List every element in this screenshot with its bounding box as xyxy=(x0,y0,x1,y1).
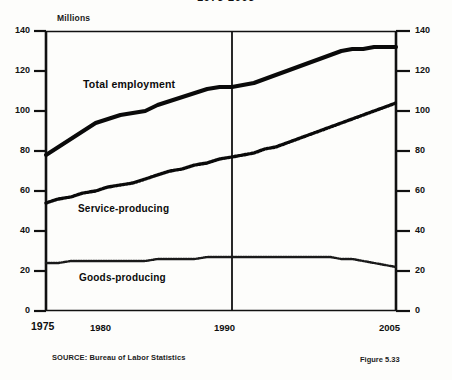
y-tick-left-20: 20 xyxy=(4,265,30,275)
axis-frame xyxy=(46,31,396,311)
series-label-goods-producing: Goods-producing xyxy=(79,272,166,283)
y-tick-right-0: 0 xyxy=(415,305,441,315)
y-tick-right-140: 140 xyxy=(415,25,441,35)
y-tick-left-0: 0 xyxy=(4,305,30,315)
figure-number: Figure 5.33 xyxy=(360,355,400,364)
series-label-total-employment: Total employment xyxy=(83,78,175,90)
x-tick-1990: 1990 xyxy=(214,322,235,333)
y-tick-left-120: 120 xyxy=(4,65,30,75)
y-axis-ticks-left xyxy=(34,31,46,311)
source-note: SOURCE: Bureau of Labor Statistics xyxy=(52,353,185,362)
series-label-service-producing: Service-producing xyxy=(78,203,169,214)
y-tick-left-80: 80 xyxy=(4,145,30,155)
y-tick-right-80: 80 xyxy=(415,145,441,155)
y-tick-left-140: 140 xyxy=(4,25,30,35)
source-prefix: SOURCE: xyxy=(52,353,87,362)
series-service-producing xyxy=(46,103,396,203)
y-tick-right-40: 40 xyxy=(415,225,441,235)
x-tick-2005: 2005 xyxy=(379,322,400,333)
y-tick-right-60: 60 xyxy=(415,185,441,195)
source-organization: Bureau of Labor Statistics xyxy=(89,353,185,362)
y-tick-right-100: 100 xyxy=(415,105,441,115)
y-tick-left-40: 40 xyxy=(4,225,30,235)
y-tick-left-100: 100 xyxy=(4,105,30,115)
y-tick-right-20: 20 xyxy=(415,265,441,275)
y-tick-left-60: 60 xyxy=(4,185,30,195)
y-tick-right-120: 120 xyxy=(415,65,441,75)
y-axis-ticks-right xyxy=(396,31,410,311)
figure-container: 1975-2005 Millions xyxy=(0,0,452,380)
series-goods-producing xyxy=(46,257,396,267)
x-tick-1980: 1980 xyxy=(90,322,111,333)
x-tick-1975: 1975 xyxy=(31,320,54,332)
series-total-employment xyxy=(46,47,396,155)
